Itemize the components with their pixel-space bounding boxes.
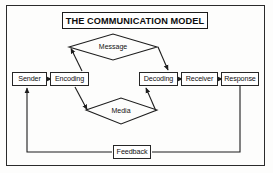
edge-feedback-to-sender — [27, 88, 112, 152]
node-receiver[interactable]: Receiver — [181, 72, 218, 86]
label-media: Media — [101, 107, 141, 114]
communication-model-diagram: THE COMMUNICATION MODEL Sender Encoding … — [0, 0, 273, 173]
node-decoding[interactable]: Decoding — [139, 72, 178, 86]
node-encoding[interactable]: Encoding — [50, 72, 89, 86]
label-message: Message — [93, 43, 133, 50]
page-title: THE COMMUNICATION MODEL — [62, 12, 208, 29]
node-response[interactable]: Response — [221, 72, 259, 86]
edge-response-to-feedback — [152, 86, 240, 152]
edge-encoding-to-media — [75, 87, 87, 110]
node-feedback[interactable]: Feedback — [113, 145, 151, 159]
edge-message-to-decoding — [158, 47, 168, 70]
edge-encoding-to-message — [71, 49, 82, 72]
node-sender[interactable]: Sender — [12, 72, 47, 86]
